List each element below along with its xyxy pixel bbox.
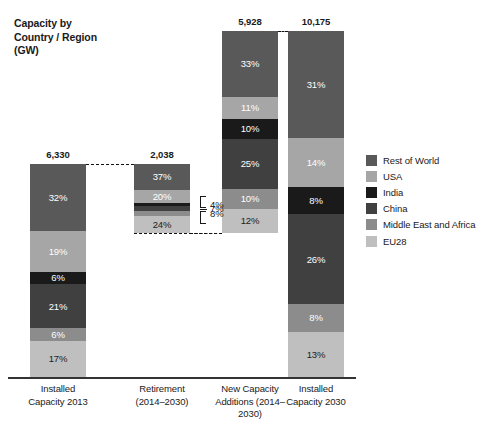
bar-stack-retirement-2014-2030: 37%20%24%: [134, 164, 190, 233]
bar-stack-installed-capacity-2030: 31%14%8%26%8%13%: [288, 31, 344, 377]
segment-value-label: 26%: [307, 255, 326, 265]
segment-callouts: 4%7%8%: [200, 0, 246, 442]
bar-stack-installed-capacity-2013: 32%19%6%21%6%17%: [30, 164, 86, 377]
bar-segment: 31%: [288, 31, 344, 138]
legend-label: India: [383, 187, 403, 198]
segment-value-label: 32%: [49, 193, 68, 203]
chart-legend: Rest of WorldUSAIndiaChinaMiddle East an…: [366, 152, 475, 249]
callout-leader-line: [200, 196, 206, 208]
stacked-bar-chart: Capacity by Country / Region (GW) 6,3303…: [0, 0, 499, 442]
bar-segment: 6%: [30, 328, 86, 341]
legend-swatch-icon: [366, 187, 377, 198]
bar-segment: 21%: [30, 284, 86, 328]
legend-swatch-icon: [366, 203, 377, 214]
legend-item[interactable]: EU28: [366, 233, 475, 249]
bar-segment: 37%: [134, 164, 190, 190]
bar-segment: 20%: [134, 190, 190, 204]
plot-area: 6,33032%19%6%21%6%17%Installed Capacity …: [0, 0, 360, 442]
legend-swatch-icon: [366, 171, 377, 182]
bar-total-installed-capacity-2030: 10,175: [288, 16, 344, 27]
legend-label: USA: [383, 171, 402, 182]
legend-swatch-icon: [366, 155, 377, 166]
category-label-retirement-2014-2030: Retirement (2014–2030): [116, 383, 208, 408]
callout-leader-line: [200, 209, 207, 210]
callout-leader-line: [200, 211, 206, 225]
legend-item[interactable]: India: [366, 184, 475, 200]
category-label-installed-capacity-2030: Installed Capacity 2030: [270, 383, 362, 408]
legend-label: Rest of World: [383, 155, 439, 166]
bar-segment: 24%: [134, 216, 190, 233]
legend-item[interactable]: China: [366, 201, 475, 217]
segment-value-label: 6%: [51, 330, 65, 340]
connector-line: [278, 31, 288, 32]
segment-value-label: 8%: [309, 313, 323, 323]
segment-value-label: 31%: [307, 80, 326, 90]
legend-label: China: [383, 203, 407, 214]
bar-total-retirement-2014-2030: 2,038: [134, 149, 190, 160]
legend-swatch-icon: [366, 219, 377, 230]
bar-segment: 13%: [288, 332, 344, 377]
bar-segment: 8%: [288, 187, 344, 215]
bar-segment: 32%: [30, 164, 86, 231]
segment-value-label: 13%: [307, 350, 326, 360]
bar-segment: 14%: [288, 138, 344, 186]
segment-value-label: 19%: [49, 247, 68, 257]
bar-segment: 19%: [30, 231, 86, 271]
legend-label: Middle East and Africa: [383, 219, 475, 230]
x-axis-line: [8, 377, 356, 379]
legend-item[interactable]: USA: [366, 168, 475, 184]
legend-item[interactable]: Middle East and Africa: [366, 217, 475, 233]
bar-segment: 8%: [288, 304, 344, 332]
legend-label: EU28: [383, 236, 406, 247]
callout-value-label: 8%: [210, 209, 224, 219]
bar-total-installed-capacity-2013: 6,330: [30, 149, 86, 160]
segment-value-label: 8%: [309, 196, 323, 206]
bar-segment: 17%: [30, 341, 86, 377]
category-label-installed-capacity-2013: Installed Capacity 2013: [12, 383, 104, 408]
segment-value-label: 14%: [307, 158, 326, 168]
bar-segment: 26%: [288, 214, 344, 304]
legend-swatch-icon: [366, 236, 377, 247]
connector-line: [86, 164, 134, 165]
segment-value-label: 20%: [153, 192, 172, 202]
segment-value-label: 37%: [153, 172, 172, 182]
segment-value-label: 24%: [153, 220, 172, 230]
segment-value-label: 6%: [51, 273, 65, 283]
segment-value-label: 21%: [49, 302, 68, 312]
bar-segment: 6%: [30, 272, 86, 285]
segment-value-label: 17%: [49, 354, 68, 364]
legend-item[interactable]: Rest of World: [366, 152, 475, 168]
